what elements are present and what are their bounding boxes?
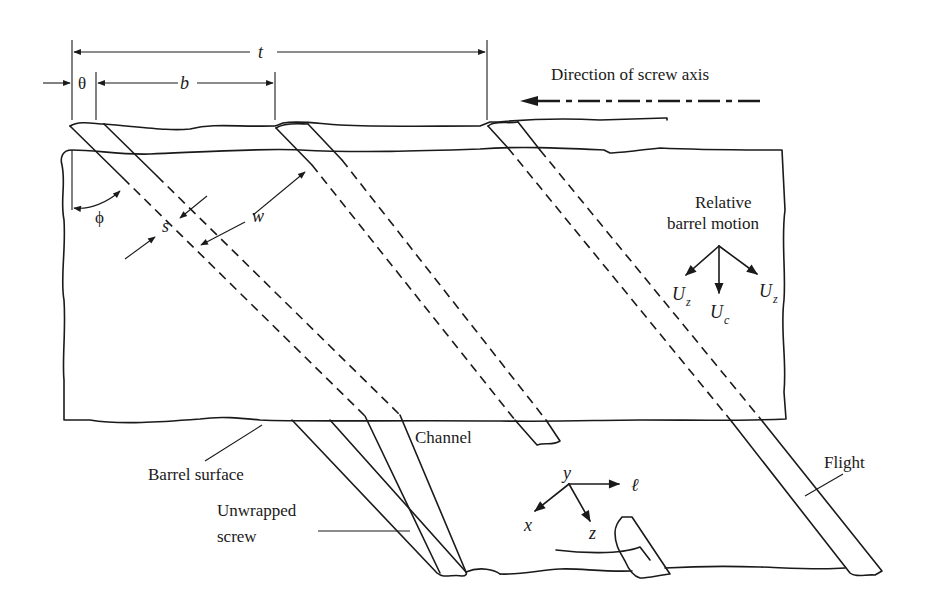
screw-axis-direction-label: Direction of screw axis <box>551 65 709 84</box>
velocity-center-label: U c <box>710 302 730 327</box>
svg-text:U: U <box>759 281 773 301</box>
svg-text:z: z <box>685 295 691 309</box>
svg-text:c: c <box>724 313 730 327</box>
y-axis-label: y <box>561 463 571 483</box>
screw-top-edge <box>104 118 667 130</box>
screw-axis-direction-arrow <box>520 96 765 106</box>
flight-width-axial-label: θ <box>78 74 86 93</box>
screw-channel-diagram: t b θ Direction of screw axis <box>0 0 925 608</box>
flight-2 <box>276 124 560 445</box>
channel-width-label: w <box>252 206 264 226</box>
flight-3 <box>488 122 882 576</box>
x-axis-label: x <box>523 515 532 535</box>
svg-text:z: z <box>772 292 778 306</box>
screw-bottom-edge <box>500 566 845 574</box>
flight-leader <box>805 474 843 496</box>
svg-text:U: U <box>710 302 724 322</box>
velocity-left-label: U z <box>672 284 691 309</box>
velocity-right-label: U z <box>759 281 778 306</box>
l-axis-label: ℓ <box>631 475 639 495</box>
channel-width-axial-label: b <box>180 73 189 93</box>
velocity-arrows <box>686 246 757 293</box>
helix-angle-arrow <box>74 191 120 208</box>
barrel-surface-callout: Barrel surface <box>148 465 244 484</box>
flight-width-label: s <box>162 216 169 236</box>
unwrapped-screw-callout-line1: Unwrapped <box>217 501 297 520</box>
barrel-motion-label-line1: Relative <box>695 193 752 212</box>
helix-angle-label: ϕ <box>95 208 104 227</box>
barrel-surface-leader <box>205 425 262 461</box>
z-axis-label: z <box>588 523 596 543</box>
unwrapped-screw-callout-line2: screw <box>217 527 257 546</box>
coordinate-axes <box>535 484 619 521</box>
channel-callout: Channel <box>415 428 472 447</box>
pitch-label: t <box>258 42 264 62</box>
flight-callout: Flight <box>824 453 865 472</box>
svg-text:U: U <box>672 284 686 304</box>
barrel-motion-label-line2: barrel motion <box>667 214 760 233</box>
flight-partial <box>615 517 670 578</box>
